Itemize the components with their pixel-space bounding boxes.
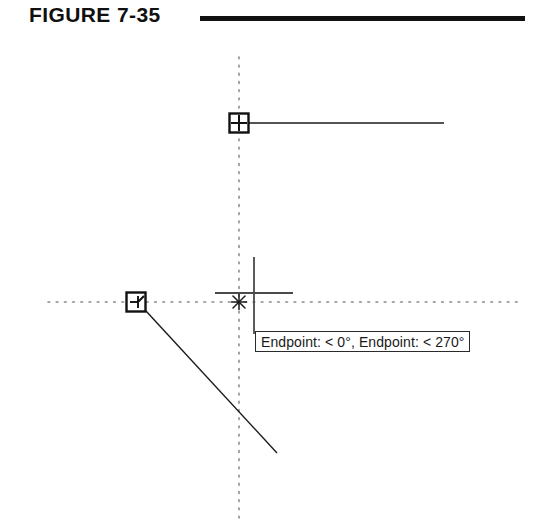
tracking-intersection-marker-icon bbox=[232, 295, 247, 310]
snap-tooltip-text: Endpoint: < 0°, Endpoint: < 270° bbox=[261, 335, 465, 349]
figure-page: FIGURE 7-35 bbox=[0, 0, 549, 530]
figure-caption-label: FIGURE 7-35 bbox=[29, 3, 161, 27]
cad-drawing-svg bbox=[0, 40, 549, 530]
endpoint-snap-marker-icon bbox=[230, 114, 249, 133]
figure-caption-rule bbox=[200, 16, 525, 21]
cad-drawing-canvas[interactable] bbox=[0, 40, 549, 530]
perpendicular-snap-marker-icon bbox=[127, 293, 146, 312]
snap-tooltip: Endpoint: < 0°, Endpoint: < 270° bbox=[255, 331, 470, 352]
